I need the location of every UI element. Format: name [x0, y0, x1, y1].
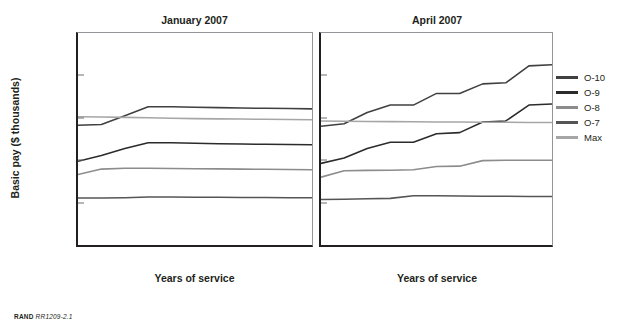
x-tick-mark: [125, 245, 126, 247]
x-tick-mark: [529, 245, 530, 247]
panel-january-2007: January 2007 81012141618 Over 20Over 22O…: [32, 14, 317, 304]
x-tick-mark: [413, 245, 414, 247]
x-tick-mark: [552, 245, 553, 247]
figure-source-note: RAND RR1209-2.1: [14, 313, 73, 320]
plot-area-left: 81012141618 Over 20Over 22Over 24Over 26…: [76, 32, 313, 247]
y-tick-mark: [78, 117, 84, 118]
x-tick-mark: [265, 245, 266, 247]
legend-label: O-7: [584, 117, 600, 128]
series-line-o-8: [78, 168, 312, 174]
x-axis-labels-left: Over 20Over 22Over 24Over 26Over 28Over …: [78, 245, 312, 247]
x-tick-mark: [321, 245, 322, 247]
series-line-o-9: [321, 104, 552, 163]
x-tick-mark: [78, 245, 79, 247]
x-tick-mark: [344, 245, 345, 247]
legend-label: O-8: [584, 102, 600, 113]
footer-brand: RAND: [14, 313, 34, 320]
x-axis-title-left: Years of service: [32, 272, 317, 284]
x-tick-mark: [218, 245, 219, 247]
legend-item[interactable]: O-10: [556, 70, 605, 85]
x-axis-title-right: Years of service: [317, 272, 557, 284]
panel-title-left: January 2007: [32, 14, 317, 26]
x-tick-mark: [390, 245, 391, 247]
y-tick-mark: [321, 117, 327, 118]
x-tick-mark: [506, 245, 507, 247]
series-line-o-7: [321, 196, 552, 200]
x-tick-mark: [172, 245, 173, 247]
footer-report-id: RR1209-2.1: [36, 313, 73, 320]
panel-april-2007: April 2007 Over 20Over 22Over 24Over 26O…: [317, 14, 557, 304]
legend-label: O-10: [584, 72, 605, 83]
x-tick-mark: [101, 245, 102, 247]
y-tick-label: 18: [76, 32, 78, 39]
legend-swatch-o-10: [556, 76, 578, 79]
y-axis-title-text: Basic pay ($ thousands): [9, 78, 21, 199]
panel-title-right: April 2007: [317, 14, 557, 26]
legend-item[interactable]: O-9: [556, 85, 605, 100]
plot-lines-left: [78, 33, 312, 245]
legend-swatch-max: [556, 136, 578, 139]
legend-swatch-o-7: [556, 121, 578, 124]
y-axis-title: Basic pay ($ thousands): [6, 38, 24, 238]
series-line-max: [78, 117, 312, 120]
x-axis-ticks-left: [78, 245, 312, 247]
x-tick-mark: [437, 245, 438, 247]
plot-lines-right: [321, 33, 552, 245]
series-line-o-9: [78, 143, 312, 161]
legend-item[interactable]: O-8: [556, 100, 605, 115]
x-axis-labels-right: Over 20Over 22Over 24Over 26Over 28Over …: [321, 245, 552, 247]
series-line-max: [321, 121, 552, 122]
y-tick-mark: [321, 75, 327, 76]
y-tick-label: 8: [76, 240, 78, 248]
legend: O-10O-9O-8O-7Max: [556, 70, 605, 145]
figure-chart-pair: Basic pay ($ thousands) January 2007 810…: [0, 0, 622, 328]
y-tick-mark: [78, 202, 84, 203]
x-tick-mark: [195, 245, 196, 247]
x-tick-mark: [289, 245, 290, 247]
x-tick-mark: [460, 245, 461, 247]
series-line-o-10: [321, 65, 552, 126]
y-tick-mark: [321, 160, 327, 161]
x-tick-mark: [483, 245, 484, 247]
legend-label: Max: [584, 132, 602, 143]
x-tick-mark: [312, 245, 313, 247]
legend-label: O-9: [584, 87, 600, 98]
series-line-o-8: [321, 160, 552, 177]
legend-item[interactable]: O-7: [556, 115, 605, 130]
y-tick-mark: [78, 75, 84, 76]
legend-swatch-o-8: [556, 106, 578, 109]
legend-item[interactable]: Max: [556, 130, 605, 145]
x-tick-mark: [367, 245, 368, 247]
y-tick-mark: [321, 202, 327, 203]
x-axis-ticks-right: [321, 245, 552, 247]
plot-area-right: Over 20Over 22Over 24Over 26Over 28Over …: [319, 32, 553, 247]
series-line-o-10: [78, 107, 312, 125]
legend-swatch-o-9: [556, 91, 578, 94]
x-tick-mark: [242, 245, 243, 247]
x-tick-mark: [148, 245, 149, 247]
series-line-o-7: [78, 197, 312, 198]
y-tick-mark: [78, 160, 84, 161]
